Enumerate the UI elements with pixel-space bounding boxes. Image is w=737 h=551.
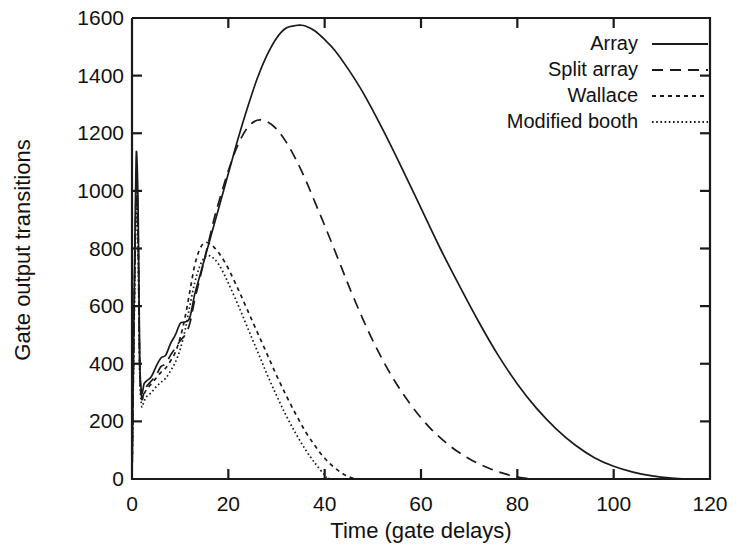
y-tick-label: 1000 — [77, 179, 124, 202]
chart-container: 16001400120010008006004002000 0204060801… — [0, 0, 737, 551]
x-tick-labels: 020406080100120 — [126, 492, 727, 515]
y-tick-label: 0 — [112, 467, 124, 490]
legend-label-wallace: Wallace — [568, 84, 638, 106]
y-tick-label: 600 — [89, 294, 124, 317]
x-tick-label: 20 — [217, 492, 240, 515]
x-tick-label: 0 — [126, 492, 138, 515]
legend-label-split-array: Split array — [548, 58, 638, 80]
y-tick-label: 200 — [89, 409, 124, 432]
y-tick-label: 1200 — [77, 121, 124, 144]
x-tick-label: 80 — [506, 492, 529, 515]
y-tick-label: 400 — [89, 352, 124, 375]
y-tick-labels: 16001400120010008006004002000 — [77, 6, 124, 490]
series-line-wallace — [132, 183, 710, 479]
x-tick-label: 100 — [596, 492, 631, 515]
x-axis-title: Time (gate delays) — [330, 518, 511, 543]
y-axis-title: Gate output transitions — [10, 139, 35, 360]
y-tick-label: 1400 — [77, 64, 124, 87]
legend-label-array: Array — [590, 32, 638, 54]
legend-label-modified-booth: Modified booth — [507, 110, 638, 132]
x-tick-label: 120 — [692, 492, 727, 515]
y-tick-label: 800 — [89, 237, 124, 260]
legend: ArraySplit arrayWallaceModified booth — [507, 32, 708, 132]
x-tick-label: 60 — [409, 492, 432, 515]
x-tick-label: 40 — [313, 492, 336, 515]
series-line-modified-booth — [132, 199, 710, 479]
y-tick-label: 1600 — [77, 6, 124, 29]
series-line-split-array — [132, 120, 710, 479]
line-chart: 16001400120010008006004002000 0204060801… — [0, 0, 737, 551]
